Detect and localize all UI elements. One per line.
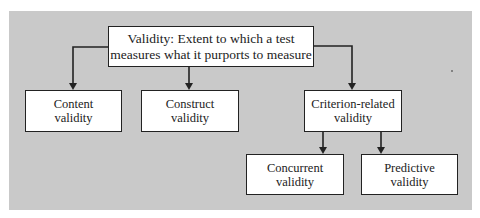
node-criterion-line-1: Criterion-related — [311, 97, 394, 111]
node-validity: Validity: Extent to which a test measure… — [108, 26, 314, 67]
node-predictive-validity: Predictive validity — [361, 154, 458, 195]
node-content-validity: Content validity — [25, 90, 122, 132]
node-criterion-line-2: validity — [334, 111, 372, 125]
node-construct-line-2: validity — [171, 111, 209, 125]
node-construct-validity: Construct validity — [141, 90, 239, 132]
node-concurrent-line-1: Concurrent — [267, 161, 323, 175]
node-concurrent-line-2: validity — [276, 175, 314, 189]
node-content-line-1: Content — [54, 97, 94, 111]
node-validity-line-1: Validity: Extent to which a test — [128, 31, 295, 47]
node-predictive-line-1: Predictive — [384, 161, 435, 175]
node-criterion-related-validity: Criterion-related validity — [304, 90, 402, 132]
diagram-canvas: Validity: Extent to which a test measure… — [0, 0, 480, 218]
node-construct-line-1: Construct — [166, 97, 215, 111]
node-content-line-2: validity — [54, 111, 92, 125]
node-validity-line-2: measures what it purports to measure — [110, 47, 311, 63]
scan-artifact-dot — [451, 70, 453, 72]
node-concurrent-validity: Concurrent validity — [246, 154, 344, 195]
node-predictive-line-2: validity — [390, 175, 428, 189]
